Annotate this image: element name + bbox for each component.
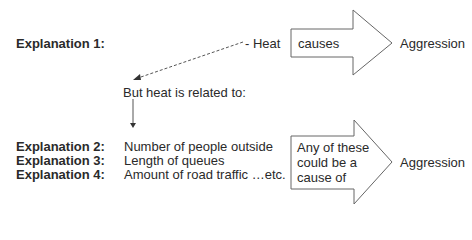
arrow-text-line-1: Any of these (297, 140, 369, 155)
arrow-text-line-3: cause of (297, 170, 369, 185)
arrow-text-line-2: could be a (297, 155, 369, 170)
dashed-arrow-line (138, 42, 243, 78)
dashed-arrow-head-icon (133, 74, 141, 80)
causes-arrow-text: causes (298, 37, 339, 50)
explanation-2-label: Explanation 2: (16, 140, 105, 153)
heat-text: Heat (253, 36, 280, 51)
any-cause-arrow-text: Any of these could be a cause of (297, 140, 369, 185)
down-arrow-head-icon (130, 123, 136, 128)
aggression-bottom-label: Aggression (400, 156, 465, 169)
explanation-3-item: Length of queues (124, 154, 224, 167)
explanation-3-label: Explanation 3: (16, 154, 105, 167)
explanation-4-item: Amount of road traffic …etc. (124, 168, 286, 181)
heat-label: - Heat (245, 37, 280, 50)
explanation-1-label: Explanation 1: (16, 37, 105, 50)
explanation-4-label: Explanation 4: (16, 168, 105, 181)
aggression-top-label: Aggression (400, 37, 465, 50)
related-text: But heat is related to: (123, 86, 246, 99)
explanation-2-item: Number of people outside (124, 140, 273, 153)
heat-dash: - (245, 36, 253, 51)
